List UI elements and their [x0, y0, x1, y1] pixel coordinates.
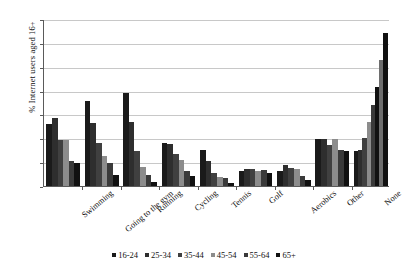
bar [305, 180, 311, 186]
bar-group [352, 20, 390, 186]
bar-group [159, 20, 197, 186]
bar-group [236, 20, 274, 186]
legend-label: 65+ [282, 250, 295, 260]
bar [344, 151, 350, 186]
x-axis-label: Golf [267, 188, 285, 206]
bar-group [313, 20, 351, 186]
legend-label: 55-64 [250, 250, 270, 260]
bar-group [275, 20, 313, 186]
bar [151, 182, 157, 186]
legend-swatch-icon [276, 253, 280, 257]
legend-item: 35-44 [178, 250, 204, 260]
bar [74, 163, 80, 186]
legend-label: 35-44 [184, 250, 204, 260]
bar [113, 175, 119, 186]
x-axis-label: Other [344, 188, 365, 208]
bar [383, 33, 387, 186]
chart-legend: 16-2425-3435-4445-5455-6465+ [0, 250, 408, 260]
x-axis-labels: SwimmingGoing to the gymRunningCyclingTe… [43, 188, 389, 243]
x-axis-label: Swimming [79, 188, 114, 220]
bar-group [198, 20, 236, 186]
bars-layer [44, 20, 389, 186]
x-axis-label: Tennis [230, 188, 254, 210]
bar [228, 183, 234, 186]
bar [267, 173, 273, 186]
legend-item: 65+ [276, 250, 295, 260]
legend-swatch-icon [211, 253, 215, 257]
legend-label: 16-24 [118, 250, 138, 260]
bar [190, 176, 196, 186]
legend-item: 25-34 [145, 250, 171, 260]
bar-group [44, 20, 82, 186]
legend-label: 45-54 [217, 250, 237, 260]
plot-area [43, 20, 389, 187]
legend-item: 55-64 [244, 250, 270, 260]
legend-swatch-icon [145, 253, 149, 257]
bar-chart: % Internet users aged 16+ 01020304050607… [0, 0, 408, 275]
x-axis-label: None [383, 188, 404, 208]
bar-group [82, 20, 120, 186]
bar-group [121, 20, 159, 186]
x-axis-label: Aerobics [309, 188, 339, 215]
legend-item: 16-24 [112, 250, 138, 260]
y-axis-title: % Internet users aged 16+ [27, 0, 37, 147]
x-axis-label: Cycling [192, 188, 219, 213]
legend-label: 25-34 [151, 250, 171, 260]
legend-swatch-icon [178, 253, 182, 257]
legend-swatch-icon [112, 253, 116, 257]
legend-swatch-icon [244, 253, 248, 257]
legend-item: 45-54 [211, 250, 237, 260]
